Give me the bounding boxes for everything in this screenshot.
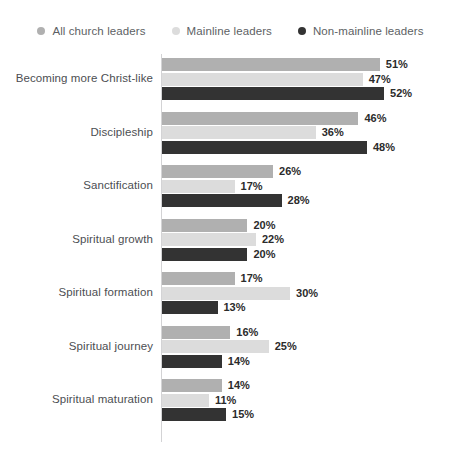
- bar-row: 17%: [162, 180, 461, 193]
- bar-value-label: 52%: [390, 87, 412, 100]
- bar[interactable]: [162, 340, 269, 353]
- circle-marker: [298, 27, 306, 35]
- bar-row: 15%: [162, 408, 461, 421]
- bar-row: 30%: [162, 287, 461, 300]
- bar-row: 11%: [162, 394, 461, 407]
- bar-value-label: 17%: [241, 180, 263, 193]
- bar-value-label: 46%: [364, 112, 386, 125]
- bar-row: 14%: [162, 355, 461, 368]
- bar-row: 14%: [162, 379, 461, 392]
- category-label: Spiritual journey: [0, 340, 153, 352]
- bar-group: Becoming more Christ-like51%47%52%: [0, 58, 461, 102]
- bar-group: Sanctification26%17%28%: [0, 165, 461, 209]
- chart-title: [0, 0, 461, 1]
- bar[interactable]: [162, 126, 316, 139]
- bar-value-label: 13%: [224, 301, 246, 314]
- bar-row: 16%: [162, 326, 461, 339]
- bar[interactable]: [162, 408, 226, 421]
- bar[interactable]: [162, 219, 247, 232]
- bar[interactable]: [162, 233, 256, 246]
- bar-row: 46%: [162, 112, 461, 125]
- bar[interactable]: [162, 194, 282, 207]
- bar-row: 13%: [162, 301, 461, 314]
- bar[interactable]: [162, 112, 358, 125]
- bar[interactable]: [162, 58, 380, 71]
- bar-value-label: 20%: [253, 248, 275, 261]
- bar-group: Spiritual maturation14%11%15%: [0, 379, 461, 423]
- bar-row: 36%: [162, 126, 461, 139]
- bar-row: 17%: [162, 272, 461, 285]
- category-label: Becoming more Christ-like: [0, 72, 153, 84]
- legend-item[interactable]: Mainline leaders: [172, 25, 272, 37]
- bar[interactable]: [162, 248, 247, 261]
- bar-value-label: 11%: [215, 394, 236, 407]
- circle-marker: [172, 27, 180, 35]
- bar[interactable]: [162, 87, 384, 100]
- bar-row: 20%: [162, 248, 461, 261]
- chart-legend: All church leadersMainline leadersNon-ma…: [0, 22, 461, 40]
- legend-item-label: Non-mainline leaders: [313, 25, 424, 37]
- category-label: Sanctification: [0, 179, 153, 191]
- bar[interactable]: [162, 394, 209, 407]
- bar[interactable]: [162, 141, 367, 154]
- bar[interactable]: [162, 73, 363, 86]
- bar-value-label: 36%: [322, 126, 344, 139]
- category-label: Spiritual growth: [0, 233, 153, 245]
- circle-marker: [37, 27, 45, 35]
- bar-value-label: 14%: [228, 379, 250, 392]
- bar-row: 52%: [162, 87, 461, 100]
- bar-row: 20%: [162, 219, 461, 232]
- bar-row: 28%: [162, 194, 461, 207]
- bar-row: 22%: [162, 233, 461, 246]
- category-label: Spiritual maturation: [0, 393, 153, 405]
- bar-value-label: 26%: [279, 165, 301, 178]
- bar-value-label: 47%: [369, 73, 391, 86]
- bar-value-label: 22%: [262, 233, 284, 246]
- legend-item-label: All church leaders: [52, 25, 145, 37]
- bar-group: Discipleship46%36%48%: [0, 112, 461, 156]
- bar[interactable]: [162, 355, 222, 368]
- bar[interactable]: [162, 326, 230, 339]
- bar-row: 26%: [162, 165, 461, 178]
- bar[interactable]: [162, 180, 235, 193]
- legend-item-label: Mainline leaders: [187, 25, 272, 37]
- bar[interactable]: [162, 379, 222, 392]
- legend-item[interactable]: Non-mainline leaders: [298, 25, 424, 37]
- category-label: Spiritual formation: [0, 286, 153, 298]
- chart-plot-area: Becoming more Christ-like51%47%52%Discip…: [0, 54, 461, 446]
- bar-value-label: 28%: [288, 194, 310, 207]
- bar-value-label: 17%: [241, 272, 263, 285]
- bar-value-label: 14%: [228, 355, 250, 368]
- bar-value-label: 30%: [296, 287, 318, 300]
- bar-row: 48%: [162, 141, 461, 154]
- bar-group: Spiritual journey16%25%14%: [0, 326, 461, 370]
- bar-value-label: 48%: [373, 141, 395, 154]
- bar-value-label: 25%: [275, 340, 297, 353]
- category-label: Discipleship: [0, 126, 153, 138]
- bar-row: 51%: [162, 58, 461, 71]
- bar-value-label: 20%: [253, 219, 275, 232]
- bar-group: Spiritual formation17%30%13%: [0, 272, 461, 316]
- bar-value-label: 51%: [386, 58, 408, 71]
- bar[interactable]: [162, 287, 290, 300]
- bar-row: 47%: [162, 73, 461, 86]
- bar-value-label: 15%: [232, 408, 254, 421]
- bar[interactable]: [162, 301, 218, 314]
- bar[interactable]: [162, 165, 273, 178]
- bar-value-label: 16%: [236, 326, 258, 339]
- bar-row: 25%: [162, 340, 461, 353]
- bar[interactable]: [162, 272, 235, 285]
- legend-item[interactable]: All church leaders: [37, 25, 145, 37]
- bar-group: Spiritual growth20%22%20%: [0, 219, 461, 263]
